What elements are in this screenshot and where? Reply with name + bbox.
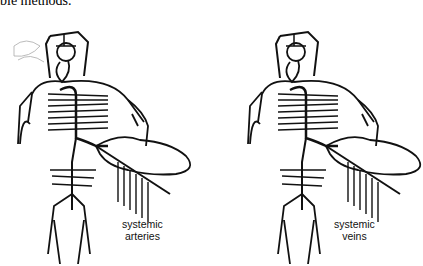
arteries-figure	[14, 32, 190, 264]
veins-label: systemic veins	[334, 218, 375, 242]
arteries-label: systemic arteries	[122, 218, 163, 242]
faint-sketch-icon	[14, 41, 44, 62]
